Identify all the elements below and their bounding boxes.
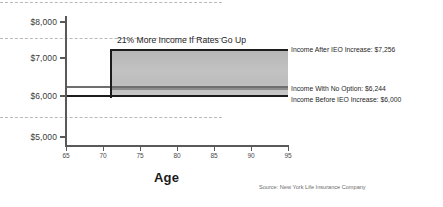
y-tick-8000	[60, 21, 66, 23]
x-axis-label-95: 95	[276, 152, 300, 159]
x-axis-label-70: 70	[91, 152, 115, 159]
y-tick-7000	[60, 57, 66, 59]
callout-income-with-no-option: Income With No Option: $6,244	[291, 85, 386, 92]
series-line-income-with-no-option	[66, 86, 288, 88]
chart-title: 21% More Income If Rates Go Up	[117, 35, 246, 45]
x-tick-75	[140, 145, 141, 151]
y-axis-line	[65, 16, 67, 146]
income-step-chart: $8,000 $7,000 $6,000 $5,000 65 70 75 80 …	[0, 0, 443, 207]
x-axis-label-90: 90	[239, 152, 263, 159]
series-line-income-after-ieo-lower	[66, 95, 111, 97]
x-axis-label-75: 75	[128, 152, 152, 159]
series-line-income-after-ieo-upper	[110, 49, 288, 51]
x-tick-95	[288, 145, 289, 151]
callout-income-after-ieo: Income After IEO Increase: $7,256	[291, 46, 395, 53]
series-line-income-after-ieo-riser	[110, 49, 112, 98]
x-tick-65	[66, 145, 67, 151]
y-axis-label-8000: $8,000	[11, 17, 57, 27]
x-axis-label-65: 65	[54, 152, 78, 159]
x-axis-label-85: 85	[202, 152, 226, 159]
x-tick-90	[251, 145, 252, 151]
y-tick-6000	[60, 95, 66, 97]
y-axis-label-7000: $7,000	[11, 53, 57, 63]
x-tick-80	[177, 145, 178, 151]
band-lower-divider	[111, 88, 288, 90]
x-tick-85	[214, 145, 215, 151]
y-axis-label-5000: $5,000	[11, 132, 57, 142]
gridline-8000	[0, 2, 222, 3]
source-note: Source: New York Life Insurance Company	[259, 184, 366, 190]
x-tick-70	[103, 145, 104, 151]
y-tick-5000	[60, 136, 66, 138]
callout-income-before-ieo: Income Before IEO Increase: $6,000	[291, 96, 401, 103]
y-axis-label-6000: $6,000	[11, 91, 57, 101]
x-axis-title: Age	[154, 170, 179, 185]
x-axis-label-80: 80	[165, 152, 189, 159]
